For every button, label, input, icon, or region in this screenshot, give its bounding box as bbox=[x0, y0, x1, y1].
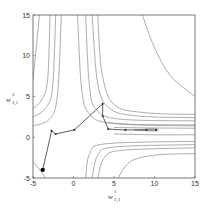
contour-line bbox=[92, 15, 195, 118]
trajectory-point bbox=[155, 129, 157, 131]
contour-line bbox=[86, 15, 195, 121]
y-tick-label: 0 bbox=[26, 134, 30, 141]
trajectory-point bbox=[73, 129, 75, 131]
contour-lines bbox=[33, 15, 195, 178]
trajectory-path bbox=[41, 103, 158, 172]
x-axis-label: w 1 1,1 bbox=[108, 189, 121, 203]
trajectory-point bbox=[145, 129, 147, 131]
contour-line bbox=[106, 123, 195, 126]
x-tick-label: 5 bbox=[112, 180, 116, 187]
contour-line bbox=[142, 15, 195, 97]
y-tick-label: -5 bbox=[24, 175, 30, 182]
y-tick-label: 10 bbox=[22, 52, 30, 59]
y-axis-label-sup: 2 bbox=[12, 92, 15, 97]
contour-chart: -5051015 -5051015 w 1 1,1 w 2 1,1 bbox=[0, 0, 211, 211]
contour-line bbox=[92, 145, 195, 178]
x-tick-label: 0 bbox=[72, 180, 76, 187]
x-tick-label: -5 bbox=[30, 180, 36, 187]
contour-line bbox=[33, 15, 61, 126]
y-tick-label: 5 bbox=[26, 93, 30, 100]
contour-line bbox=[114, 127, 195, 128]
trajectory-point bbox=[102, 103, 104, 105]
contour-line bbox=[114, 134, 195, 135]
trajectory-line bbox=[43, 104, 156, 170]
x-tick-label: 15 bbox=[191, 180, 199, 187]
contour-line bbox=[33, 15, 39, 80]
y-axis-label: w 2 1,1 bbox=[6, 92, 19, 106]
contour-line bbox=[33, 15, 56, 117]
trajectory-point bbox=[107, 128, 109, 130]
x-axis-label-sub: 1,1 bbox=[114, 197, 121, 203]
contour-line bbox=[118, 154, 195, 178]
trajectory-point bbox=[102, 115, 104, 117]
trajectory-point bbox=[124, 129, 126, 131]
trajectory-point bbox=[55, 133, 57, 135]
x-axis-label-sup: 1 bbox=[114, 189, 117, 194]
x-tick-label: 10 bbox=[151, 180, 159, 187]
y-axis-label-sub: 1,1 bbox=[12, 100, 19, 106]
contour-line bbox=[33, 15, 50, 109]
contour-line bbox=[86, 141, 195, 178]
start-marker bbox=[41, 168, 45, 172]
y-tick-label: 15 bbox=[22, 12, 30, 19]
trajectory-point bbox=[51, 130, 53, 132]
contour-line bbox=[98, 148, 195, 178]
contour-line bbox=[98, 15, 195, 114]
